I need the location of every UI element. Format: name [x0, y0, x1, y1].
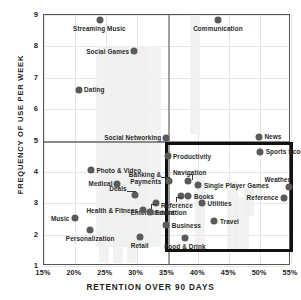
data-point[interactable] [280, 194, 287, 201]
x-axis-tick-label: 15% [36, 268, 51, 277]
x-axis-tick-label: 45% [221, 268, 236, 277]
x-axis-tick-label: 50% [252, 268, 267, 277]
data-point[interactable] [164, 153, 171, 160]
data-point[interactable] [285, 183, 292, 190]
data-point-label: Utilities [208, 200, 232, 207]
data-point[interactable] [131, 192, 138, 199]
scatter-chart: FREQUENCY OF USE PER WEEK 123456789 Stre… [0, 0, 301, 300]
data-point-label: Communication [193, 25, 243, 32]
data-point-label: Music [51, 215, 70, 222]
data-point[interactable] [96, 16, 103, 23]
plot-area: Streaming MusicSocial GamesCommunication… [43, 14, 290, 265]
x-axis-tick-label: 35% [159, 268, 174, 277]
data-point[interactable] [146, 209, 153, 216]
label-leader-line [127, 191, 136, 192]
data-point-label: Streaming Music [73, 25, 126, 32]
data-point-label: Weather [265, 176, 291, 183]
y-axis-label: FREQUENCY OF USE PER WEEK [16, 45, 25, 205]
y-axis-tick-label: 3 [26, 198, 38, 207]
data-point[interactable] [185, 193, 192, 200]
data-point-label: Business [172, 222, 201, 229]
data-point[interactable] [163, 134, 170, 141]
data-point-label: Dating [84, 86, 104, 93]
data-point[interactable] [257, 149, 264, 156]
y-axis-tick-label: 8 [26, 41, 38, 50]
label-leader-line [176, 197, 182, 202]
data-point-label: Deals [81, 185, 127, 193]
data-point[interactable] [166, 177, 173, 184]
data-point-label: Travel [220, 218, 239, 225]
x-axis-tick-label: 40% [190, 268, 205, 277]
y-axis-tick-label: 2 [26, 229, 38, 238]
data-point-label: Education [155, 209, 187, 216]
data-point[interactable] [255, 133, 262, 140]
data-point-label: Sports Scores [266, 148, 301, 156]
data-point[interactable] [195, 182, 202, 189]
data-point-label: Retail [131, 242, 149, 249]
data-point[interactable] [215, 16, 222, 23]
data-point[interactable] [87, 226, 94, 233]
gridline-vertical [44, 15, 45, 264]
x-axis-tick-label: 25% [97, 268, 112, 277]
data-point-label: Social Games [86, 48, 129, 55]
data-point[interactable] [199, 200, 206, 207]
data-point-label: Social Networking [104, 134, 161, 141]
label-leader-line [187, 174, 193, 180]
data-point-label: Productivity [173, 153, 211, 160]
label-leader-line [161, 177, 170, 178]
x-axis-tick-label: 55% [283, 268, 298, 277]
x-axis-label: RETENTION OVER 90 DAYS [0, 283, 301, 292]
y-axis-tick-label: 4 [26, 166, 38, 175]
data-point-label: Health & Fitness [86, 207, 138, 214]
data-point[interactable] [181, 234, 188, 241]
gridline-horizontal [44, 46, 289, 47]
data-point-label: Personalization [66, 235, 115, 242]
gridline-vertical [75, 15, 76, 264]
data-point-label: Banking & Payments [115, 171, 161, 186]
data-point-label: Reference [247, 194, 279, 201]
data-point[interactable] [211, 218, 218, 225]
gridline-horizontal [44, 78, 289, 79]
y-axis-tick-label: 9 [26, 10, 38, 19]
data-point-label: Single Player Games [204, 182, 269, 189]
x-axis-tick-label: 20% [66, 268, 81, 277]
gridline-horizontal [44, 266, 289, 267]
gridline-horizontal [44, 15, 289, 16]
data-point[interactable] [131, 48, 138, 55]
x-axis-tick-label: 30% [128, 268, 143, 277]
y-axis-tick-label: 6 [26, 104, 38, 113]
data-point[interactable] [75, 86, 82, 93]
data-point-label: Food & Drink [164, 243, 205, 250]
y-axis-tick-label: 5 [26, 135, 38, 144]
data-point[interactable] [71, 215, 78, 222]
y-axis-tick-label: 7 [26, 72, 38, 81]
background-smudge [190, 15, 200, 134]
data-point-label: News [264, 133, 281, 140]
gridline-horizontal [44, 109, 289, 110]
data-point[interactable] [136, 234, 143, 241]
data-point[interactable] [87, 167, 94, 174]
data-point[interactable] [163, 222, 170, 229]
